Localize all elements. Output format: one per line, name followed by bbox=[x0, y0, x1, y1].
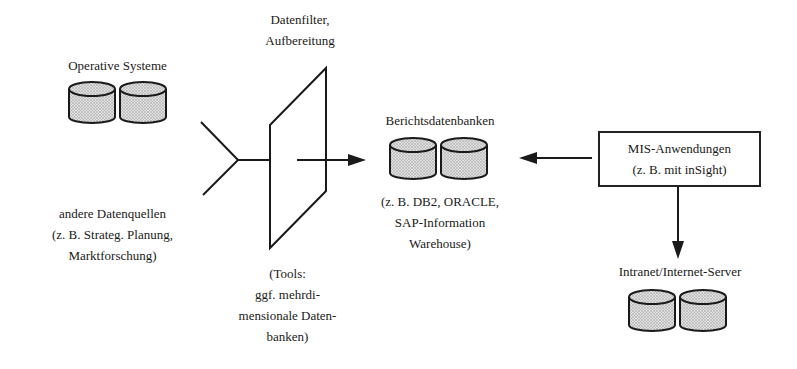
label-line: ggf. mehrdi- bbox=[220, 284, 355, 305]
filter-shape bbox=[270, 68, 326, 248]
database-icon-intranet-1 bbox=[629, 290, 675, 331]
label-line: Marktforschung) bbox=[20, 245, 205, 266]
label-line: (z. B. Strateg. Planung, bbox=[20, 224, 205, 245]
arrow-mis-to-reports bbox=[519, 152, 592, 164]
mis-anwendungen-box: MIS-Anwendungen (z. B. mit inSight) bbox=[598, 131, 761, 187]
label-intranet-server: Intranet/Internet-Server bbox=[590, 261, 770, 282]
arrow-mis-to-intranet bbox=[672, 186, 684, 259]
label-berichtsdatenbanken-examples: (z. B. DB2, ORACLE, SAP-Information Ware… bbox=[360, 191, 520, 254]
source-merge-lines bbox=[201, 122, 271, 195]
database-icon-bericht-1 bbox=[390, 138, 436, 179]
label-line: (Tools: bbox=[220, 263, 355, 284]
label-line: Aufbereitung bbox=[240, 30, 360, 51]
label-line: MIS-Anwendungen bbox=[628, 138, 731, 159]
label-operative-systeme: Operative Systeme bbox=[40, 55, 195, 76]
label-berichtsdatenbanken: Berichtsdatenbanken bbox=[360, 110, 520, 131]
label-line: Warehouse) bbox=[360, 233, 520, 254]
label-tools: (Tools: ggf. mehrdi- mensionale Daten- b… bbox=[220, 263, 355, 347]
database-icon-bericht-2 bbox=[441, 138, 487, 179]
database-icon-intranet-2 bbox=[680, 290, 726, 331]
database-icon-operative-1 bbox=[69, 82, 115, 123]
arrow-filter-to-reports bbox=[297, 154, 366, 166]
label-line: (z. B. DB2, ORACLE, bbox=[360, 191, 520, 212]
label-line: andere Datenquellen bbox=[20, 203, 205, 224]
label-line: SAP-Information bbox=[360, 212, 520, 233]
label-datenfilter: Datenfilter, Aufbereitung bbox=[240, 9, 360, 51]
database-icon-operative-2 bbox=[120, 82, 166, 123]
label-line: banken) bbox=[220, 326, 355, 347]
label-line: mensionale Daten- bbox=[220, 305, 355, 326]
label-andere-datenquellen: andere Datenquellen (z. B. Strateg. Plan… bbox=[20, 203, 205, 266]
label-line: (z. B. mit inSight) bbox=[632, 159, 726, 180]
label-line: Datenfilter, bbox=[240, 9, 360, 30]
